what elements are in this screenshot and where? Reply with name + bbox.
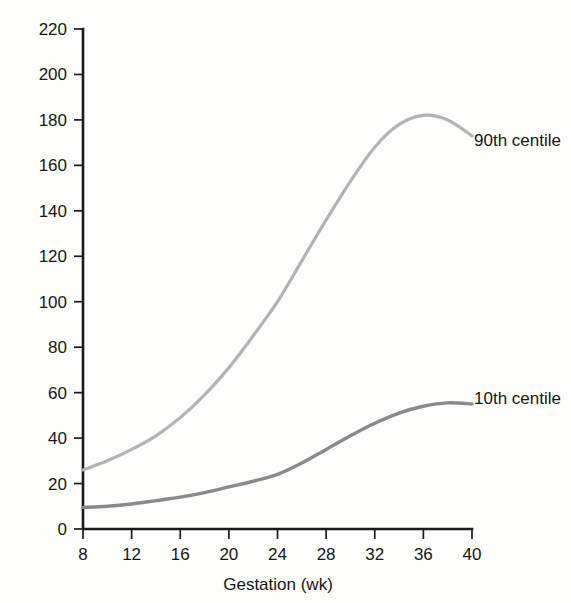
x-axis-title: Gestation (wk)	[223, 575, 333, 594]
y-tick-label: 140	[39, 202, 67, 221]
y-tick-label: 160	[39, 156, 67, 175]
x-tick-label: 20	[219, 545, 238, 564]
y-tick-label: 180	[39, 111, 67, 130]
x-tick-label: 28	[317, 545, 336, 564]
y-tick-label: 60	[48, 384, 67, 403]
x-tick-label: 16	[171, 545, 190, 564]
x-tick-label: 36	[414, 545, 433, 564]
y-tick-label: 220	[39, 20, 67, 39]
x-tick-label: 32	[365, 545, 384, 564]
y-tick-label: 40	[48, 429, 67, 448]
y-tick-label: 200	[39, 65, 67, 84]
x-tick-label: 40	[463, 545, 482, 564]
y-tick-label: 100	[39, 293, 67, 312]
series-label-10th: 10th centile	[474, 389, 561, 408]
x-tick-label: 24	[268, 545, 287, 564]
chart-background	[0, 0, 571, 603]
y-tick-label: 0	[58, 520, 67, 539]
prolactin-gestation-chart: 020406080100120140160180200220 812162024…	[0, 0, 571, 603]
x-tick-label: 12	[122, 545, 141, 564]
y-tick-label: 120	[39, 247, 67, 266]
y-tick-label: 20	[48, 475, 67, 494]
y-tick-label: 80	[48, 338, 67, 357]
x-tick-label: 8	[78, 545, 87, 564]
series-label-90th: 90th centile	[474, 131, 561, 150]
chart-canvas: 020406080100120140160180200220 812162024…	[0, 0, 571, 603]
